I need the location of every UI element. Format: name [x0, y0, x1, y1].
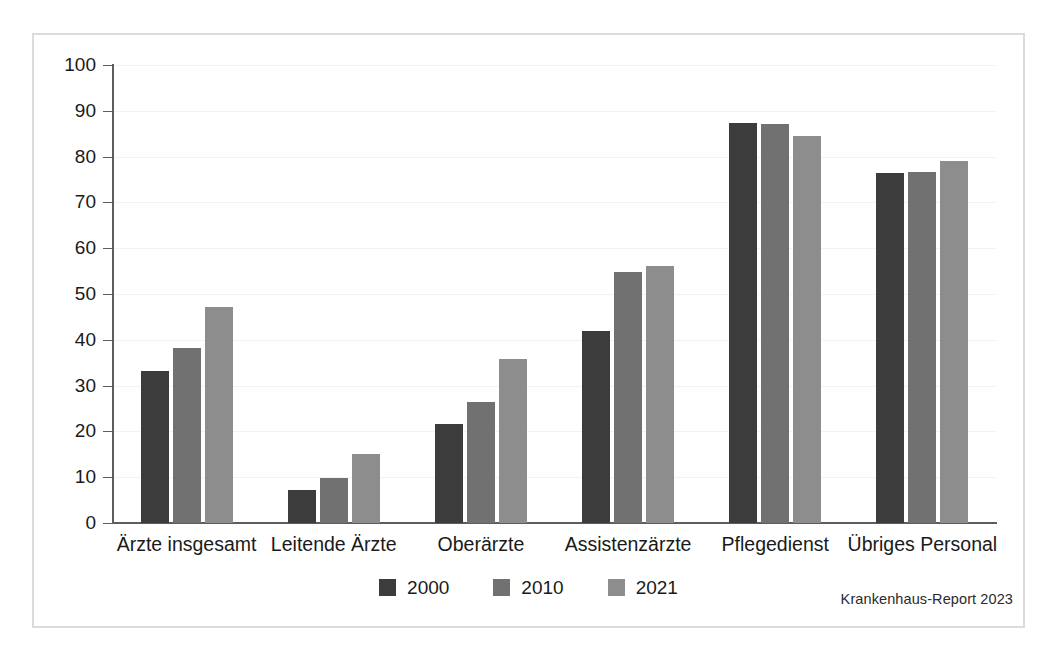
x-axis-category-label: Übriges Personal: [792, 534, 1052, 555]
y-tick-label-wrap: 40: [50, 330, 96, 349]
bar: [141, 371, 169, 523]
bar: [435, 424, 463, 523]
bar: [876, 173, 904, 523]
legend-label: 2021: [636, 578, 678, 597]
y-tick-label-wrap: 50: [50, 284, 96, 303]
bar: [940, 161, 968, 523]
bar: [761, 124, 789, 523]
legend-item: 2021: [608, 578, 678, 597]
y-tick-mark: [103, 294, 112, 295]
bar-group: [582, 65, 674, 523]
y-tick-mark: [103, 248, 112, 249]
bar-group: [141, 65, 233, 523]
y-tick-label: 10: [52, 467, 96, 486]
legend-item: 2010: [493, 578, 563, 597]
bar-group: [729, 65, 821, 523]
source-note: Krankenhaus-Report 2023: [841, 591, 1013, 607]
bar: [467, 402, 495, 523]
legend-swatch-icon: [608, 579, 625, 596]
plot-area: [113, 65, 996, 523]
y-tick-mark: [103, 523, 112, 524]
y-tick-label-wrap: 10: [50, 467, 96, 486]
legend-swatch-icon: [379, 579, 396, 596]
bar: [793, 136, 821, 523]
y-tick-label-wrap: 20: [50, 421, 96, 440]
y-tick-mark: [103, 202, 112, 203]
bar: [205, 307, 233, 523]
y-tick-label-wrap: 80: [50, 147, 96, 166]
y-tick-mark: [103, 340, 112, 341]
y-tick-label: 80: [52, 147, 96, 166]
bar: [288, 490, 316, 523]
y-tick-label: 40: [52, 330, 96, 349]
y-tick-mark: [103, 386, 112, 387]
y-tick-label-wrap: 0: [50, 513, 96, 532]
y-tick-label-wrap: 100: [50, 55, 96, 74]
bar-group: [876, 65, 968, 523]
bar: [729, 123, 757, 523]
y-tick-label: 20: [52, 421, 96, 440]
bar: [352, 454, 380, 523]
bar-group: [288, 65, 380, 523]
bar-group: [435, 65, 527, 523]
y-tick-label: 0: [52, 513, 96, 532]
bar: [499, 359, 527, 523]
y-tick-label: 70: [52, 192, 96, 211]
y-tick-label: 30: [52, 376, 96, 395]
y-tick-label-wrap: 30: [50, 376, 96, 395]
y-tick-label: 50: [52, 284, 96, 303]
bar: [320, 478, 348, 523]
y-tick-mark: [103, 65, 112, 66]
legend-label: 2010: [521, 578, 563, 597]
y-tick-mark: [103, 431, 112, 432]
legend-item: 2000: [379, 578, 449, 597]
y-tick-label-wrap: 70: [50, 192, 96, 211]
legend-label: 2000: [407, 578, 449, 597]
y-tick-label-wrap: 60: [50, 238, 96, 257]
legend-swatch-icon: [493, 579, 510, 596]
bar: [646, 266, 674, 523]
y-tick-label: 90: [52, 101, 96, 120]
chart-figure: 0102030405060708090100 Ärzte insgesamtLe…: [0, 0, 1057, 666]
bar: [173, 348, 201, 523]
bar: [908, 172, 936, 523]
y-tick-mark: [103, 157, 112, 158]
bar: [614, 272, 642, 523]
y-tick-label-wrap: 90: [50, 101, 96, 120]
y-tick-label: 60: [52, 238, 96, 257]
bar: [582, 331, 610, 523]
y-tick-mark: [103, 477, 112, 478]
y-tick-mark: [103, 111, 112, 112]
y-tick-label: 100: [52, 55, 96, 74]
